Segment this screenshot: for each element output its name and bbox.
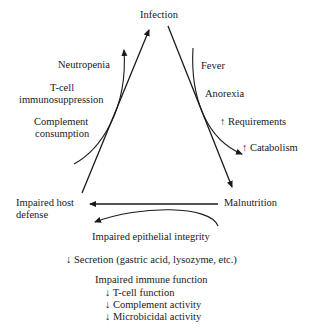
label-anorexia: Anorexia (205, 88, 244, 100)
label-epithelial: Impaired epithelial integrity (92, 231, 210, 243)
label-fever: Fever (201, 60, 225, 72)
label-complement-2: consumption (35, 128, 89, 140)
label-immune-item: ↓ T-cell function (105, 287, 174, 299)
label-complement-1: Complement (34, 116, 88, 128)
curve-bottom-effects (95, 210, 218, 226)
label-neutropenia: Neutropenia (58, 59, 110, 71)
node-infection: Infection (140, 9, 178, 21)
node-host-defense-2: defense (16, 209, 48, 221)
node-malnutrition: Malnutrition (224, 197, 277, 209)
label-immune-item: ↓ Microbicidal activity (105, 311, 201, 323)
label-secretion: ↓ Secretion (gastric acid, lysozyme, etc… (66, 254, 237, 266)
label-immune-item: ↓ Complement activity (105, 299, 201, 311)
label-immune-title: Impaired immune function (95, 274, 208, 286)
node-host-defense-1: Impaired host (16, 197, 74, 209)
label-requirements: ↑ Requirements (220, 116, 286, 128)
label-tcell-2: immunosuppression (19, 94, 104, 106)
label-catabolism: ↑ Catabolism (242, 142, 298, 154)
label-tcell-1: T-cell (50, 82, 74, 94)
